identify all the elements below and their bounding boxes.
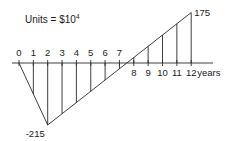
max-value-label: 175 [194, 7, 210, 18]
cash-flow-diagram: Units = $104 0123456789101112 175 -215 y… [0, 0, 232, 141]
axis-unit-label: years [197, 67, 220, 78]
year-tick-label: 9 [146, 67, 151, 78]
year-tick-label: 5 [88, 47, 93, 58]
year-tick-labels: 0123456789101112 [16, 47, 196, 78]
year-tick-label: 11 [172, 67, 182, 78]
year-tick-label: 7 [117, 47, 122, 58]
year-tick-label: 8 [131, 67, 136, 78]
year-tick-label: 10 [157, 67, 168, 78]
year-tick-label: 2 [45, 47, 50, 58]
units-label: Units = $104 [25, 13, 80, 25]
min-value-label: -215 [26, 128, 45, 139]
year-tick-label: 6 [102, 47, 107, 58]
year-tick-label: 3 [59, 47, 64, 58]
year-tick-label: 0 [16, 47, 21, 58]
year-tick-label: 12 [186, 67, 197, 78]
year-tick-label: 1 [31, 47, 36, 58]
year-tick-label: 4 [74, 47, 79, 58]
